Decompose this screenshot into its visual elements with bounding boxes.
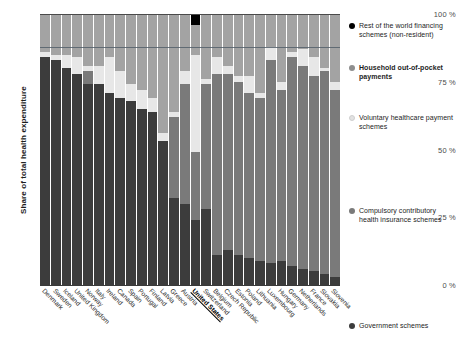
bar-column [309, 14, 319, 285]
bar-segment [72, 14, 82, 57]
x-axis-labels: DenmarkSwedenIcelandUnited KingdomNorway… [40, 287, 340, 360]
bar-segment [244, 14, 254, 76]
bar-segment [158, 141, 168, 285]
bar-segment [169, 198, 179, 285]
bar-segment [201, 84, 211, 209]
bar-segment [330, 90, 340, 277]
bar-segment [158, 133, 168, 141]
bar-segment [330, 82, 340, 90]
bar-segment [94, 84, 104, 285]
bar-segment [298, 269, 308, 285]
bar-segment [234, 255, 244, 285]
bar-segment [180, 84, 190, 203]
bar-segment [287, 266, 297, 285]
legend-label: Government schemes [359, 322, 428, 331]
bar-column [234, 14, 244, 285]
bar-column [62, 14, 72, 285]
bar-segment [255, 98, 265, 261]
bar-segment [255, 14, 265, 93]
legend-swatch-icon [349, 23, 355, 29]
plot-area [40, 14, 340, 285]
bar-segment [180, 204, 190, 285]
y-axis: Share of total health expenditure [0, 0, 40, 300]
bar-column [277, 14, 287, 285]
bar-column [137, 14, 147, 285]
legend-label: Voluntary healthcare payment schemes [359, 114, 454, 131]
bar-segment [212, 57, 222, 73]
bar-segment [244, 93, 254, 258]
bar-column [105, 14, 115, 285]
legend-label: Compulsory contributory health insurance… [359, 207, 454, 224]
bar-segment [266, 14, 276, 47]
bar-segment [126, 84, 136, 100]
bar-column [191, 14, 201, 285]
legend-item[interactable]: Rest of the world financing schemes (non… [349, 22, 454, 39]
bar-segment [72, 57, 82, 73]
bar-segment [169, 14, 179, 112]
chart-root: Share of total health expenditure 100 %7… [0, 0, 456, 360]
bar-segment [287, 57, 297, 266]
reference-rule [40, 47, 340, 48]
legend-item[interactable]: Compulsory contributory health insurance… [349, 207, 454, 224]
bar-segment [137, 90, 147, 109]
legend-item[interactable]: Government schemes [349, 322, 428, 331]
bar-segment [309, 14, 319, 57]
bar-segment [244, 258, 254, 285]
bar-segment [191, 14, 201, 25]
bar-segment [298, 49, 308, 65]
legend-swatch-icon [349, 208, 355, 214]
bar-group [40, 14, 340, 285]
bar-segment [223, 250, 233, 285]
legend-item[interactable]: Voluntary healthcare payment schemes [349, 114, 454, 131]
bar-segment [223, 74, 233, 250]
bar-segment [191, 55, 201, 153]
bar-segment [51, 14, 61, 55]
bar-segment [212, 74, 222, 256]
bar-segment [83, 71, 93, 85]
bar-segment [320, 14, 330, 68]
bar-segment [309, 271, 319, 285]
legend-swatch-icon [349, 323, 355, 329]
bar-column [320, 14, 330, 285]
bar-segment [277, 14, 287, 82]
bar-segment [191, 152, 201, 220]
bar-segment [105, 14, 115, 57]
bar-segment [115, 14, 125, 71]
y-axis-label: Share of total health expenditure [19, 75, 28, 225]
bar-column [298, 14, 308, 285]
bar-segment [94, 66, 104, 85]
legend-swatch-icon [349, 115, 355, 121]
bar-segment [309, 76, 319, 271]
bar-segment [298, 14, 308, 49]
bar-segment [223, 14, 233, 65]
bar-segment [266, 47, 276, 61]
bar-segment [83, 14, 93, 65]
legend-item[interactable]: Household out-of-pocket payments [349, 64, 454, 81]
bar-segment [298, 66, 308, 269]
bar-segment [115, 71, 125, 98]
bar-column [83, 14, 93, 285]
bar-segment [137, 14, 147, 90]
bar-segment [62, 68, 72, 285]
bar-column [244, 14, 254, 285]
bar-segment [234, 82, 244, 255]
bar-segment [320, 71, 330, 274]
bar-segment [126, 14, 136, 84]
bar-column [266, 14, 276, 285]
bar-column [126, 14, 136, 285]
bar-column [115, 14, 125, 285]
bar-segment [320, 274, 330, 285]
bar-segment [309, 57, 319, 76]
bar-segment [212, 255, 222, 285]
bar-segment [158, 14, 168, 133]
bar-segment [148, 98, 158, 112]
bar-segment [51, 60, 61, 285]
bar-segment [105, 93, 115, 285]
bar-column [287, 14, 297, 285]
bar-segment [330, 14, 340, 82]
bar-column [330, 14, 340, 285]
bar-segment [105, 57, 115, 92]
bar-column [255, 14, 265, 285]
bar-segment [191, 25, 201, 55]
bar-segment [62, 14, 72, 55]
